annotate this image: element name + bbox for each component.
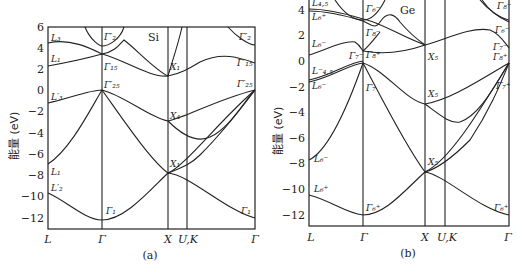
svg-text:Γ: Γ (250, 233, 259, 246)
svg-text:L: L (43, 233, 51, 246)
svg-text:Γ₆⁻: Γ₆⁻ (494, 25, 510, 35)
svg-text:Γ₆⁺: Γ₆⁺ (493, 203, 509, 213)
svg-text:L′₃: L′₃ (50, 92, 63, 102)
y-ticks-b: 4 2 0 −2 −4 −6 −8 −10 −12 (282, 4, 305, 222)
svg-text:Γ: Γ (97, 233, 106, 246)
svg-text:−10: −10 (282, 183, 305, 196)
svg-text:0: 0 (298, 55, 305, 68)
svg-text:6: 6 (37, 21, 44, 34)
svg-text:L⁻₄,₅: L⁻₄,₅ (311, 66, 333, 76)
svg-text:L₆⁻: L₆⁻ (313, 154, 329, 164)
caption-b: (b) (400, 247, 416, 260)
svg-text:Γ₇⁺: Γ₇⁺ (495, 81, 511, 91)
svg-text:L′₂: L′₂ (50, 183, 63, 193)
svg-text:4: 4 (298, 4, 305, 17)
svg-text:−12: −12 (282, 209, 305, 222)
svg-text:Γ₆⁺: Γ₆⁺ (365, 203, 381, 213)
svg-text:Γ₇⁻: Γ₇⁻ (492, 42, 508, 52)
svg-text:Γ₁₅: Γ₁₅ (103, 62, 118, 72)
plot-frame-b (309, 0, 509, 226)
y-ticks-a: 6 4 2 0 −2 −4 −6 −8 −10 −12 (21, 21, 44, 225)
panel-a-si: 6 4 2 0 −2 −4 −6 −8 −10 −12 能量 (eV) L₃ L… (7, 21, 259, 262)
svg-text:Γ′₂₅: Γ′₂₅ (103, 80, 120, 90)
svg-text:Γ₁: Γ₁ (105, 206, 116, 216)
svg-text:L₆⁻: L₆⁻ (311, 81, 327, 91)
svg-text:−10: −10 (21, 190, 44, 203)
y-axis-label-a: 能量 (eV) (7, 112, 21, 160)
svg-text:−4: −4 (28, 127, 44, 140)
panel-b-ge: 4 2 0 −2 −4 −6 −8 −10 −12 能量 (eV) (271, 0, 512, 260)
svg-text:X₅: X₅ (427, 89, 438, 99)
x-ticks-a: L Γ X U,K Γ (43, 233, 259, 246)
svg-text:−4: −4 (289, 106, 305, 119)
svg-text:L₁: L₁ (50, 167, 61, 177)
svg-text:−6: −6 (28, 148, 44, 161)
svg-text:L₆⁺: L₆⁺ (313, 184, 329, 194)
svg-text:X₅: X₅ (427, 157, 438, 167)
svg-text:Γ′₂: Γ′₂ (238, 32, 251, 42)
svg-text:Γ₇: Γ₇ (365, 83, 376, 93)
svg-text:−2: −2 (28, 105, 44, 118)
x-ticks-b: L Γ X U,K Γ (306, 231, 512, 244)
svg-text:−2: −2 (289, 81, 305, 94)
svg-text:L: L (306, 231, 314, 244)
svg-text:−6: −6 (289, 132, 305, 145)
svg-text:2: 2 (298, 29, 305, 42)
svg-text:Γ₈⁻: Γ₈⁻ (365, 28, 381, 38)
svg-text:Γ: Γ (359, 231, 368, 244)
bands-b (309, 0, 509, 215)
svg-text:−8: −8 (289, 157, 305, 170)
svg-text:Γ′₂₅: Γ′₂₅ (236, 79, 253, 89)
svg-text:−12: −12 (21, 212, 44, 225)
y-axis-label-b: 能量 (eV) (271, 107, 285, 155)
svg-text:X₅: X₅ (427, 52, 438, 62)
material-label-si: Si (148, 31, 160, 44)
caption-a: (a) (142, 249, 157, 262)
svg-text:Γ₁: Γ₁ (240, 206, 251, 216)
svg-text:Γ′₂: Γ′₂ (103, 32, 116, 42)
svg-text:Γ₇⁻: Γ₇⁻ (348, 51, 364, 61)
svg-text:Γ₈⁻: Γ₈⁻ (496, 1, 512, 11)
svg-text:Γ: Γ (503, 231, 512, 244)
svg-text:0: 0 (37, 84, 44, 97)
svg-text:4: 4 (37, 42, 44, 55)
svg-text:U,K: U,K (178, 233, 199, 246)
svg-text:2: 2 (37, 63, 44, 76)
svg-text:X₁: X₁ (169, 62, 180, 72)
svg-text:L₄,₅: L₄,₅ (311, 0, 328, 8)
svg-text:Γ₈⁺: Γ₈⁺ (365, 50, 381, 60)
svg-text:L₁: L₁ (50, 54, 61, 64)
svg-text:L₃: L₃ (50, 33, 61, 43)
svg-text:L₆⁺: L₆⁺ (311, 12, 327, 22)
bands-a (48, 27, 255, 220)
svg-text:X: X (163, 233, 173, 246)
svg-text:L₆⁻: L₆⁻ (311, 39, 327, 49)
svg-text:Γ′₁₅: Γ′₁₅ (236, 58, 253, 68)
band-structure-figure: 6 4 2 0 −2 −4 −6 −8 −10 −12 能量 (eV) L₃ L… (0, 0, 520, 269)
material-label-ge: Ge (400, 4, 415, 17)
svg-text:X: X (420, 231, 430, 244)
svg-text:Γ₈⁺: Γ₈⁺ (492, 52, 508, 62)
svg-text:Γ₆⁻: Γ₆⁻ (365, 4, 381, 14)
svg-text:U,K: U,K (437, 231, 458, 244)
svg-text:X₄: X₄ (169, 111, 180, 121)
svg-text:−8: −8 (28, 169, 44, 182)
svg-text:X₁: X₁ (169, 159, 180, 169)
